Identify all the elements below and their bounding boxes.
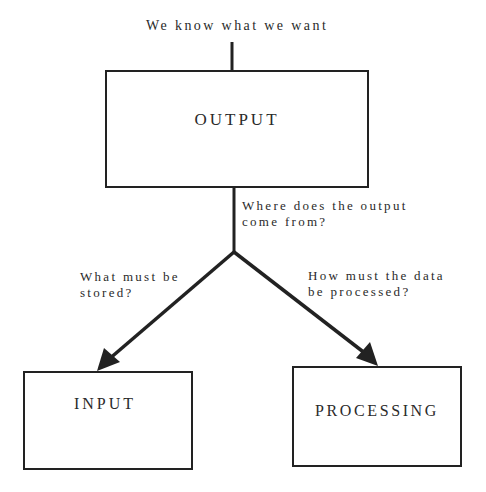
arrowhead-processing-icon <box>356 342 378 366</box>
input-label: INPUT <box>25 395 191 413</box>
output-label: OUTPUT <box>107 110 367 130</box>
processed-annotation-line1: How must the data <box>308 268 445 284</box>
processing-box: PROCESSING <box>292 366 462 467</box>
stored-annotation-line2: stored? <box>80 285 134 301</box>
where-annotation-line1: Where does the output <box>242 198 408 214</box>
output-box: OUTPUT <box>105 70 369 188</box>
input-box: INPUT <box>23 371 193 470</box>
data-flow-diagram: We know what we want OUTPUT Where does t… <box>0 0 486 492</box>
where-annotation-line2: come from? <box>242 214 327 230</box>
stored-annotation-line1: What must be <box>80 269 180 285</box>
processed-annotation-line2: be processed? <box>308 284 410 300</box>
processing-label: PROCESSING <box>294 402 460 420</box>
top-caption: We know what we want <box>146 18 328 34</box>
